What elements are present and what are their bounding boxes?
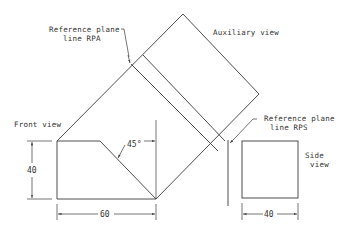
front-view-outline (57, 141, 156, 199)
side-view-outline (242, 141, 298, 198)
label-side-view-1: Side (305, 152, 324, 160)
dimension-value-angle: 45° (126, 140, 142, 149)
dimension-angle (118, 120, 156, 199)
auxiliary-view-drawing: Reference plane line RPA Auxiliary view … (0, 0, 352, 234)
label-auxiliary-view: Auxiliary view (213, 29, 279, 37)
leader-rpa (121, 29, 130, 63)
label-reference-plane-rpa-2: line RPA (63, 35, 101, 43)
label-side-view-2: view (310, 161, 329, 169)
label-reference-plane-rpa-1: Reference plane (49, 26, 120, 34)
dimension-value-front-width: 60 (99, 210, 111, 219)
reference-plane-rpa (131, 55, 225, 151)
label-reference-plane-rps-1: Reference plane (264, 115, 335, 123)
label-reference-plane-rps-2: line RPS (270, 124, 308, 132)
dimension-value-front-height: 40 (26, 166, 38, 175)
label-front-view: Front view (14, 121, 61, 129)
dimension-value-side-width: 40 (263, 210, 275, 219)
leader-rps (230, 119, 257, 143)
